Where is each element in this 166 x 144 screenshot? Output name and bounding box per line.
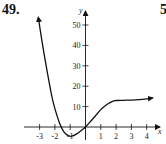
- x-tick-label: 1: [99, 132, 103, 141]
- x-axis-label: x: [157, 127, 162, 136]
- y-axis-label: y: [78, 6, 83, 15]
- function-graph: xy -3-2-112341020304050: [0, 0, 166, 144]
- y-tick-label: 30: [73, 62, 81, 71]
- y-tick-label: 20: [73, 82, 81, 91]
- x-tick-label: -2: [52, 132, 59, 141]
- y-tick-label: 40: [73, 41, 81, 50]
- axes: xy: [24, 6, 162, 140]
- y-tick-label: 50: [73, 21, 81, 30]
- function-curve: [39, 21, 153, 136]
- axis-ticks: -3-2-112341020304050: [36, 21, 148, 141]
- x-tick-label: -3: [36, 132, 43, 141]
- x-tick-label: 2: [114, 132, 118, 141]
- y-tick-label: 10: [73, 103, 81, 112]
- x-tick-label: 4: [145, 132, 149, 141]
- x-tick-label: 3: [129, 132, 133, 141]
